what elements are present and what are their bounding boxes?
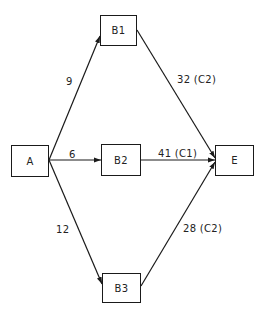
edge-label-b2-e: 41 (C1): [158, 148, 197, 160]
edge-label-b1-e: 32 (C2): [177, 74, 216, 86]
edge-b1-e: [137, 30, 215, 158]
edge-a-b1: [49, 36, 100, 160]
node-b3: B3: [102, 273, 141, 303]
edge-label-a-b2: 6: [69, 149, 76, 161]
edge-a-b3: [49, 160, 102, 284]
node-b2: B2: [101, 144, 141, 176]
node-b1: B1: [100, 15, 137, 46]
node-e: E: [215, 145, 254, 176]
edge-label-b3-e: 28 (C2): [183, 223, 222, 235]
node-a: A: [11, 145, 49, 177]
node-e-label: E: [231, 155, 238, 166]
edge-label-a-b1: 9: [66, 76, 73, 88]
node-a-label: A: [26, 156, 33, 167]
node-b3-label: B3: [115, 283, 129, 294]
node-b2-label: B2: [114, 155, 128, 166]
edge-label-a-b3: 12: [56, 224, 69, 236]
flow-diagram: A B1 B2 B3 E 9 6 12 32 (C2) 41 (C1) 28 (…: [0, 0, 266, 312]
node-b1-label: B1: [112, 25, 126, 36]
